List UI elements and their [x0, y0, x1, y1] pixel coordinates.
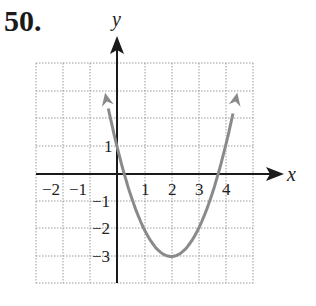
y-tick-label: −2 [92, 219, 110, 238]
x-axis-label: x [286, 163, 296, 185]
y-tick-label: 1 [104, 137, 113, 156]
y-axis-label: y [110, 8, 121, 31]
y-tick-label: −1 [92, 192, 110, 211]
x-tick-label: −1 [69, 180, 87, 199]
x-tick-label: 4 [222, 180, 231, 199]
x-tick-label: −2 [42, 180, 60, 199]
x-tick-label: 3 [195, 180, 204, 199]
y-tick-label: −3 [92, 247, 110, 266]
labels-layer: y x −2 −1 1 2 3 4 1 −1 −2 −3 [0, 0, 316, 306]
x-tick-label: 1 [141, 180, 150, 199]
x-tick-label: 2 [168, 180, 177, 199]
